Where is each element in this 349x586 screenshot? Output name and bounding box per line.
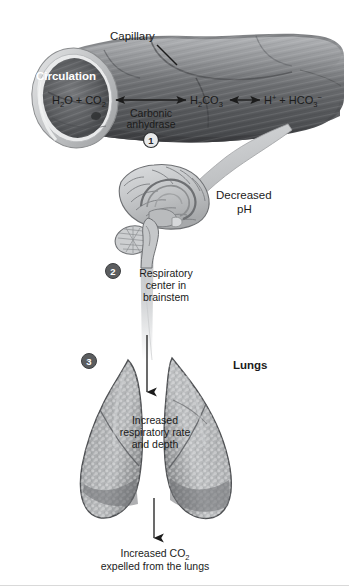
carbonic-anhydrase-label-line2: anhydrase: [126, 118, 175, 130]
circulation-label: Circulation: [36, 70, 96, 82]
lungs-label: Lungs: [233, 359, 268, 371]
respiratory-center-label-line3: brainstem: [143, 291, 189, 303]
capillary-label: Capillary: [110, 30, 155, 42]
lungs-effect-line3: and depth: [132, 438, 179, 450]
pituitary: [172, 217, 182, 227]
step-marker-2-number: 2: [110, 266, 115, 277]
decreased-ph-label-line2: pH: [237, 203, 252, 215]
outcome-label-line2: expelled from the lungs: [101, 560, 210, 572]
capillary-illustration: Capillary Circulation H2O+CO2 H2CO3: [25, 30, 344, 153]
step-marker-3-number: 3: [86, 356, 91, 367]
respiratory-center-label-line1: Respiratory: [139, 267, 193, 279]
decreased-ph-label-line1: Decreased: [216, 189, 272, 201]
respiratory-center-label-line2: center in: [146, 279, 186, 291]
brain-illustration: Decreased pH 2 Respiratory center in bra…: [106, 165, 272, 360]
step-marker-1: 1: [144, 133, 159, 148]
step-marker-3: 3: [82, 354, 97, 369]
step-marker-1-number: 1: [148, 135, 154, 146]
diagram-canvas: Capillary Circulation H2O+CO2 H2CO3: [0, 0, 349, 586]
step-marker-2: 2: [106, 264, 121, 279]
lungs-effect-line2: respiratory rate: [120, 426, 191, 438]
respiratory-compensation-diagram: Capillary Circulation H2O+CO2 H2CO3: [0, 0, 349, 585]
lungs-illustration: 3 Lungs Increased respiratory rate and d…: [80, 354, 267, 519]
lungs-effect-line1: Increased: [132, 414, 178, 426]
